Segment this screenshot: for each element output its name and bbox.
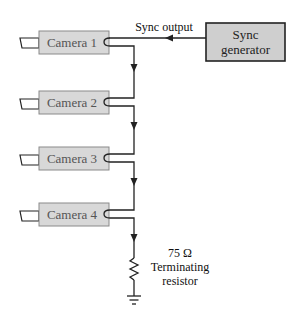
arrow-down-icon (131, 122, 138, 130)
daisy-chain-wires (110, 46, 138, 296)
sync-output-label: Sync output (135, 20, 193, 34)
ground-icon (127, 296, 141, 304)
camera-1: Camera 1 (20, 31, 110, 54)
resistor-value: 75 Ω (168, 246, 192, 260)
generator-label-line2: generator (221, 42, 271, 57)
lens-icon (20, 99, 39, 109)
arrow-down-icon (131, 178, 138, 186)
lens-icon (20, 211, 39, 221)
arrow-down-icon (131, 64, 138, 72)
camera-label: Camera 4 (47, 207, 98, 222)
resistor-label-line2: resistor (162, 274, 197, 288)
camera-4: Camera 4 (20, 203, 110, 226)
camera-label: Camera 3 (47, 151, 97, 166)
sync-distribution-diagram: Sync generator Sync output Camera 1 Came… (0, 0, 293, 326)
lens-icon (20, 38, 39, 48)
resistor-annotation: 75 Ω Terminating resistor (151, 246, 209, 288)
camera-label: Camera 1 (47, 35, 97, 50)
camera-label: Camera 2 (47, 95, 97, 110)
lens-icon (20, 155, 39, 165)
arrow-down-icon (131, 234, 138, 242)
camera-3: Camera 3 (20, 147, 110, 170)
sync-generator: Sync generator (206, 23, 285, 61)
resistor-label-line1: Terminating (151, 260, 209, 274)
generator-label-line1: Sync (233, 27, 259, 42)
arrow-left-icon (165, 35, 173, 42)
camera-2: Camera 2 (20, 91, 110, 114)
